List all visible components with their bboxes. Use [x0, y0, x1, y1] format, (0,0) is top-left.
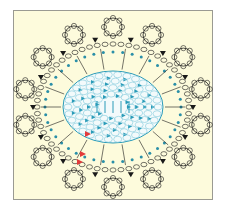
- dot: [179, 113, 182, 116]
- chain-ring: [87, 165, 93, 169]
- chain-ring: [179, 79, 185, 83]
- chain-ring: [155, 54, 161, 58]
- chain-ring: [72, 50, 78, 54]
- dot: [140, 156, 143, 159]
- dot: [102, 160, 105, 163]
- dot: [83, 55, 86, 58]
- chain-ring: [176, 136, 182, 140]
- chain-ring: [184, 118, 190, 122]
- dot: [131, 158, 134, 161]
- chain-ring: [186, 105, 192, 109]
- chain-ring: [102, 42, 108, 46]
- chain-ring: [59, 152, 65, 156]
- chain-ring: [87, 45, 93, 49]
- dot: [75, 152, 78, 155]
- dot: [54, 76, 57, 79]
- dot: [173, 128, 176, 131]
- chain-ring: [110, 168, 116, 172]
- stitch-triangle: [92, 172, 98, 177]
- stitch-triangle: [30, 105, 36, 110]
- chain-ring: [155, 156, 161, 160]
- chain-ring: [141, 47, 147, 51]
- chain-ring: [161, 152, 167, 156]
- chain-ring: [38, 124, 44, 128]
- chain-ring: [166, 147, 172, 151]
- dot: [67, 64, 70, 67]
- chain-ring: [102, 167, 108, 171]
- chain-ring: [34, 111, 40, 115]
- dot: [75, 59, 78, 62]
- chain-ring: [34, 105, 40, 109]
- chain-ring: [36, 118, 42, 122]
- stitch-triangle: [92, 38, 98, 43]
- dot: [131, 53, 134, 56]
- chain-ring: [41, 130, 47, 134]
- dot: [50, 83, 53, 86]
- dot: [169, 135, 172, 138]
- dot: [54, 135, 57, 138]
- stitch-triangle: [128, 38, 134, 43]
- dot: [177, 121, 180, 124]
- dot: [148, 59, 151, 62]
- dot: [44, 113, 47, 116]
- chain-ring: [94, 43, 100, 47]
- chain-ring: [166, 63, 172, 67]
- stitch-triangle: [128, 172, 134, 177]
- chain-ring: [118, 167, 124, 171]
- chain-ring: [44, 73, 50, 77]
- dot: [156, 147, 159, 150]
- chain-ring: [126, 43, 132, 47]
- spoke: [139, 140, 149, 158]
- dot: [112, 161, 115, 164]
- chain-ring: [79, 47, 85, 51]
- chain-ring: [182, 124, 188, 128]
- dot: [156, 64, 159, 67]
- crochet-diagram: [0, 0, 225, 209]
- chain-ring: [59, 58, 65, 62]
- chain-ring: [49, 68, 55, 72]
- chain-ring: [171, 68, 177, 72]
- chain-ring: [36, 92, 42, 96]
- spoke: [77, 56, 87, 74]
- chain-ring: [171, 142, 177, 146]
- dot: [173, 83, 176, 86]
- chain-ring: [148, 50, 154, 54]
- chain-ring: [161, 58, 167, 62]
- dot: [46, 121, 49, 124]
- chain-ring: [186, 111, 192, 115]
- chain-ring: [34, 98, 40, 102]
- dot: [102, 51, 105, 54]
- spoke: [153, 69, 168, 82]
- chain-ring: [133, 45, 139, 49]
- chain-ring: [148, 159, 154, 163]
- chain-ring: [133, 165, 139, 169]
- chain-ring: [110, 42, 116, 46]
- chain-ring: [126, 166, 132, 170]
- chain-ring: [38, 85, 44, 89]
- spoke: [153, 131, 168, 144]
- chain-ring: [41, 79, 47, 83]
- dot: [121, 51, 124, 54]
- dot: [177, 90, 180, 93]
- stitch-triangle: [38, 135, 44, 140]
- chain-ring: [54, 63, 60, 67]
- chain-ring: [94, 166, 100, 170]
- chain-ring: [182, 85, 188, 89]
- chain-ring: [179, 130, 185, 134]
- spoke: [58, 131, 73, 144]
- dot: [140, 55, 143, 58]
- dot: [44, 98, 47, 101]
- chain-ring: [54, 147, 60, 151]
- chain-ring: [49, 142, 55, 146]
- dot: [67, 147, 70, 150]
- dot: [83, 156, 86, 159]
- dot: [50, 128, 53, 131]
- dot: [148, 152, 151, 155]
- dot: [179, 98, 182, 101]
- dot: [112, 51, 115, 54]
- dot: [92, 53, 95, 56]
- spoke: [58, 69, 73, 82]
- stitch-triangle: [160, 159, 166, 164]
- chain-ring: [44, 136, 50, 140]
- stitch-triangle: [190, 105, 196, 110]
